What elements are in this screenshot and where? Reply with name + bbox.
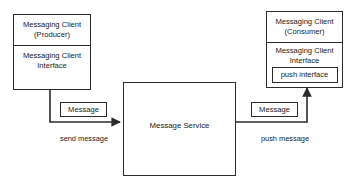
push-message-tag[interactable]: Message <box>251 102 298 117</box>
producer-interface-line-1: Messaging Client <box>23 51 81 61</box>
consumer-client-box[interactable]: Messaging Client (Consumer) Messaging Cl… <box>266 11 343 88</box>
consumer-interface-section: Messaging Client Interface push interfac… <box>267 43 342 87</box>
send-message-tag[interactable]: Message <box>60 102 107 117</box>
producer-header-line-2: (Producer) <box>34 30 70 40</box>
diagram-canvas: Messaging Client (Producer) Messaging Cl… <box>0 0 352 186</box>
producer-interface-line-2: Interface <box>37 61 67 71</box>
message-service-box[interactable]: Message Service <box>123 82 236 176</box>
producer-client-box[interactable]: Messaging Client (Producer) Messaging Cl… <box>13 14 91 90</box>
message-service-label: Message Service <box>124 121 235 130</box>
send-message-caption: send message <box>47 134 121 143</box>
producer-header-line-1: Messaging Client <box>23 20 81 30</box>
producer-interface-section: Messaging Client Interface <box>14 46 90 89</box>
consumer-header-section: Messaging Client (Consumer) <box>267 12 342 42</box>
consumer-interface-line-2: Interface <box>290 56 320 66</box>
consumer-header-line-1: Messaging Client <box>275 17 333 27</box>
push-interface-box[interactable]: push interface <box>272 67 338 83</box>
consumer-interface-line-1: Messaging Client <box>275 46 333 56</box>
push-message-caption: push message <box>247 134 323 143</box>
producer-header-section: Messaging Client (Producer) <box>14 15 90 45</box>
consumer-header-line-2: (Consumer) <box>284 27 324 37</box>
